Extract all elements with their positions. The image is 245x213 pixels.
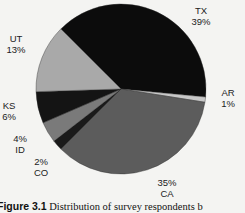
label-ar: AR1% [221,87,235,109]
label-co: 2%CO [34,156,49,178]
caption-text: Distribution of survey respondents b [49,201,202,212]
pie-slices [36,4,206,174]
label-id: 4%ID [13,133,27,155]
label-tx: TX39% [191,5,211,27]
label-ut: UT13% [6,33,26,55]
label-ca: 35%CA [157,177,177,199]
pie-chart: TX39%AR1%35%CA2%CO4%IDKS6%UT13% [0,0,245,213]
label-ks: KS6% [2,100,16,122]
caption-label: Figure 3.1 [0,200,47,212]
figure-caption: Figure 3.1 Distribution of survey respon… [0,200,203,212]
